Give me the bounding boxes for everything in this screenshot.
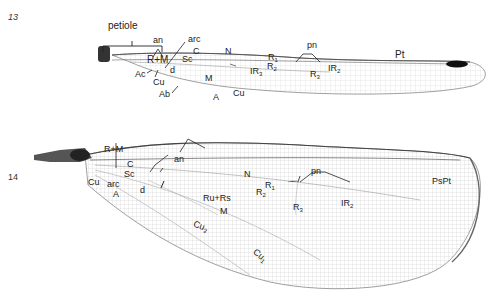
label-c-14: C [127,160,134,169]
label-cu-14: Cu [88,178,100,187]
wing-illustrations [0,0,492,308]
label-r1-14: R1 [265,181,275,191]
label-ir3-text: IR [250,66,259,76]
label-ir3: IR3 [250,67,262,77]
pterostigma [446,61,468,68]
label-r3-sub: 3 [317,74,320,80]
label-pn: pn [307,41,317,50]
label-ac: Ac [135,70,146,79]
label-ir3-sub: 3 [259,71,262,77]
label-an-14: an [174,155,184,164]
label-m: M [205,74,213,83]
label-pt: Pt [395,50,404,60]
label-sc-14: Sc [124,170,135,179]
label-r1-14-sub: 1 [272,185,275,191]
label-an: an [153,36,163,45]
label-sc: Sc [182,55,193,64]
label-d-14: d [140,186,145,195]
label-r2-14: R2 [256,188,266,198]
label-pspt: PsPt [432,177,451,186]
label-cu: Cu [153,78,165,87]
label-r-plus-m-14: R+M [104,145,123,154]
figure-number-14: 14 [8,172,18,182]
label-c: C [193,47,200,56]
label-r3: R3 [310,70,320,80]
label-arc: arc [188,35,201,44]
label-r2-sub: 2 [274,66,277,72]
label-m-14: M [220,207,228,216]
hindwing-fig14 [34,139,480,289]
figure-number-13: 13 [8,12,18,22]
label-r-plus-m: R+M [147,55,168,65]
label-ir2-14: IR2 [341,199,353,209]
label-arc-14: arc [107,180,120,189]
label-r2-14-sub: 2 [263,192,266,198]
label-cu-2: Cu [233,89,245,98]
label-ir2-14-text: IR [341,198,350,208]
label-ab: Ab [159,90,170,99]
label-ir2-14-sub: 2 [350,203,353,209]
label-ir2: IR2 [328,64,340,74]
label-r2: R2 [267,62,277,72]
label-a: A [213,93,219,102]
label-ir2-text: IR [328,63,337,73]
label-pn-14: pn [311,167,321,176]
label-petiole: petiole [108,21,137,31]
label-ir2-sub: 2 [337,68,340,74]
label-ru-plus-rs: Ru+Rs [203,194,231,203]
label-r3-14-sub: 3 [300,207,303,213]
label-n: N [225,47,232,56]
label-r3-14: R3 [293,203,303,213]
label-n-14: N [244,170,251,179]
label-a-14: A [113,190,119,199]
wing-base [98,46,110,62]
label-d: d [170,66,175,75]
